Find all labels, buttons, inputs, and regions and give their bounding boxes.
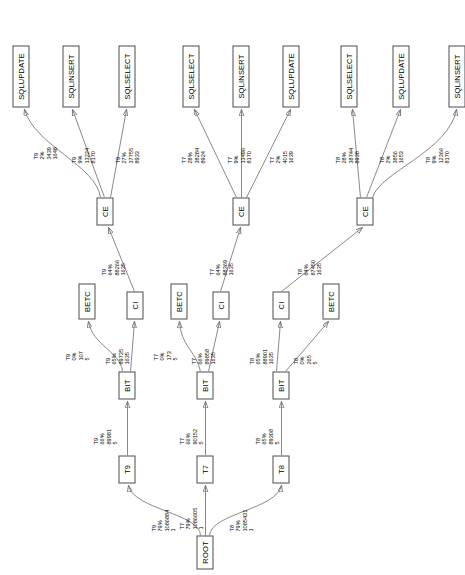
node-sqlupdate7[interactable]: SQLUPDATE <box>282 45 299 107</box>
edge-label-e15: T864%874501635 <box>296 259 322 275</box>
edge-label-line: T9 <box>64 351 70 360</box>
edge-label-line: 1639 <box>287 151 293 163</box>
edge-label-line: 64% <box>214 259 220 275</box>
node-betc7[interactable]: BETC <box>170 283 187 319</box>
edge-label-line: 2% <box>384 151 390 163</box>
edge-label-line: 88369 <box>221 259 227 275</box>
node-label: BETC <box>326 291 335 312</box>
edge-label-e14: T764%883691635 <box>208 259 234 275</box>
edge-label-line: 2% <box>38 147 44 159</box>
edge-label-e9: T70%1735 <box>152 351 178 360</box>
node-label: SQLUPDATE <box>16 53 25 100</box>
edge-label-line: 66% <box>98 428 104 444</box>
edge-label-line: 0% <box>158 351 164 360</box>
edge-label-e17: T99%132248170 <box>70 147 96 163</box>
node-label: SQLINSERT <box>236 54 245 98</box>
edge-label-line: T7 <box>180 147 186 163</box>
node-label: CE <box>360 206 369 217</box>
edge-label-e10: T766%898581635 <box>190 348 216 364</box>
edge-label-line: 28% <box>186 147 192 163</box>
edge-label-e13: T964%882661635 <box>100 259 126 275</box>
node-ci7[interactable]: CI <box>212 291 229 319</box>
node-label: SQLINSERT <box>452 54 461 98</box>
edge-label-line: T8 <box>334 147 340 163</box>
edge-label-line: 13496 <box>239 147 245 163</box>
edge-label-line: T7 <box>178 428 184 444</box>
edge-label-e3: T879%10854311 <box>228 509 254 531</box>
edge-label-line: 1635 <box>227 259 233 275</box>
node-label: CE <box>236 206 245 217</box>
node-t7[interactable]: T7 <box>196 455 213 483</box>
edge-label-line: 1635 <box>267 348 273 364</box>
edge-label-line: 0% <box>298 355 304 364</box>
node-label: SQLSELECT <box>344 53 353 99</box>
node-bit9[interactable]: BIT <box>118 371 135 399</box>
node-root[interactable]: ROOT <box>196 535 213 569</box>
edge-label-line: T9 <box>104 348 110 364</box>
edge-label-line: T7 <box>178 507 184 529</box>
node-bit8[interactable]: BIT <box>272 371 289 399</box>
edge-label-line: 79% <box>234 509 240 531</box>
edge-label-e23: T82%38561653 <box>378 151 404 163</box>
edge-bit9-ci <box>130 321 134 371</box>
edge-label-line: 1 <box>197 507 203 529</box>
node-sqlupdate8[interactable]: SQLUPDATE <box>392 45 409 107</box>
edge-label-line: T9 <box>114 147 120 163</box>
node-label: BIT <box>122 379 131 391</box>
node-sqlinsert7[interactable]: SQLINSERT <box>232 45 249 107</box>
node-label: SQLSELECT <box>122 53 131 99</box>
node-label: T7 <box>200 464 209 473</box>
edge-label-line: T9 <box>150 509 156 531</box>
edge-label-e19: T728%382848924 <box>180 147 206 163</box>
edge-label-line: T9 <box>32 147 38 159</box>
edge-label-e21: T72%40151639 <box>268 151 294 163</box>
node-ci9[interactable]: CI <box>126 291 143 319</box>
edge-label-e20: T79%134968170 <box>226 147 252 163</box>
node-label: SQLUPDATE <box>396 53 405 100</box>
edge-label-line: 13224 <box>83 147 89 163</box>
node-betc8[interactable]: BETC <box>322 283 339 319</box>
edge-label-line: 88901 <box>261 348 267 364</box>
node-sqlinsert8[interactable]: SQLINSERT <box>448 45 465 107</box>
node-bit7[interactable]: BIT <box>196 371 213 399</box>
node-ce9[interactable]: CE <box>96 197 113 225</box>
edge-label-line: 88266 <box>113 259 119 275</box>
edge-label-e22: T828%387448938 <box>334 147 360 163</box>
edge-label-e11: T865%889011635 <box>248 348 274 364</box>
edge-label-line: T8 <box>424 147 430 163</box>
edge-label-line: 3439 <box>45 147 51 159</box>
edge-label-line: 1635 <box>209 348 215 364</box>
node-t8[interactable]: T8 <box>272 455 289 483</box>
node-sqlselect7[interactable]: SQLSELECT <box>182 45 199 107</box>
node-t9[interactable]: T9 <box>118 455 135 483</box>
edge-label-line: T9 <box>70 147 76 163</box>
edge-label-line: 1 <box>169 509 175 531</box>
edge-label-line: 87450 <box>309 259 315 275</box>
edge-label-line: 90152 <box>191 428 197 444</box>
edge-label-line: 265 <box>305 355 311 364</box>
node-ce8[interactable]: CE <box>356 197 373 225</box>
edge-label-line: 2% <box>274 151 280 163</box>
node-label: SQLUPDATE <box>286 53 295 100</box>
edge-label-line: T8 <box>292 355 298 364</box>
edge-label-line: T8 <box>248 348 254 364</box>
edge-label-line: 79% <box>184 507 190 529</box>
edge-bit8-ci <box>276 321 280 371</box>
node-betc9[interactable]: BETC <box>78 283 95 319</box>
edge-label-line: 8933 <box>133 147 139 163</box>
node-sqlselect8[interactable]: SQLSELECT <box>340 45 357 107</box>
edge-label-line: 3856 <box>391 151 397 163</box>
node-sqlupdate9[interactable]: SQLUPDATE <box>12 45 29 107</box>
node-label: SQLINSERT <box>66 54 75 98</box>
node-sqlinsert9[interactable]: SQLINSERT <box>62 45 79 107</box>
node-ce7[interactable]: CE <box>232 197 249 225</box>
node-sqlselect9[interactable]: SQLSELECT <box>118 45 135 107</box>
edge-label-line: 1086605 <box>191 507 197 529</box>
edge-label-line: 1086884 <box>163 509 169 531</box>
node-ci8[interactable]: CI <box>272 291 289 319</box>
edge-label-line: 64% <box>302 259 308 275</box>
node-label: CI <box>216 301 225 309</box>
edge-label-line: 27% <box>120 147 126 163</box>
node-label: ROOT <box>200 541 209 563</box>
